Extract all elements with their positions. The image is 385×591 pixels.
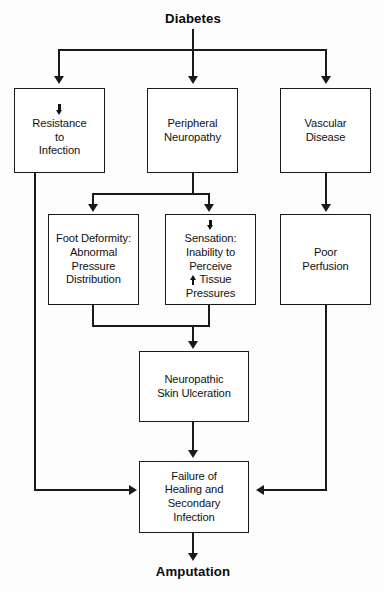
node-foot-line2: Abnormal xyxy=(52,246,135,260)
node-failure-of-healing[interactable]: Failure of Healing and Secondary Infecti… xyxy=(139,461,249,533)
connector-perfusion-bypass-vertical xyxy=(325,305,327,491)
diagram-title: Diabetes xyxy=(143,11,243,26)
arrowhead-failure-right xyxy=(256,485,264,495)
node-resistance-to-infection[interactable]: Resistance to Infection xyxy=(14,88,105,173)
arrowhead-amputation xyxy=(188,553,198,561)
connector-resistance-bypass-vertical xyxy=(34,173,36,491)
down-arrow-icon xyxy=(207,220,214,231)
arrowhead-resistance xyxy=(54,76,64,84)
node-foot-line3: Pressure xyxy=(52,260,135,274)
node-foot-line1: Foot Deformity: xyxy=(52,232,135,246)
node-perfusion-line1: Poor xyxy=(284,246,367,260)
node-failure-line4: Infection xyxy=(143,511,245,525)
connector-sensation-down xyxy=(208,305,210,327)
connector-failure-to-amputation xyxy=(192,533,194,555)
node-foot-deformity[interactable]: Foot Deformity: Abnormal Pressure Distri… xyxy=(48,214,139,305)
node-vascular-disease[interactable]: Vascular Disease xyxy=(280,88,371,173)
node-failure-line2: Healing and xyxy=(143,483,245,497)
node-resistance-line1: Resistance xyxy=(18,117,101,131)
node-sensation-line1: Sensation: xyxy=(169,232,252,246)
diagram-outcome: Amputation xyxy=(133,564,253,579)
node-foot-line4: Distribution xyxy=(52,273,135,287)
connector-foot-down xyxy=(92,305,94,327)
node-resistance-line3: Infection xyxy=(18,144,101,158)
arrowhead-sensation xyxy=(204,204,214,212)
arrowhead-foot-deformity xyxy=(88,204,98,212)
node-ulcer-line2: Skin Ulceration xyxy=(143,387,245,401)
connector-drop-neuropathy xyxy=(192,49,194,78)
connector-vascular-to-perfusion xyxy=(325,173,327,206)
connector-drop-resistance xyxy=(58,49,60,78)
connector-diabetes-stem xyxy=(192,29,194,51)
arrowhead-failure-left xyxy=(129,485,137,495)
node-peripheral-line2: Neuropathy xyxy=(151,131,234,145)
node-peripheral-neuropathy[interactable]: Peripheral Neuropathy xyxy=(147,88,238,173)
node-vascular-line1: Vascular xyxy=(284,117,367,131)
diagram-outcome-text: Amputation xyxy=(156,564,230,579)
connector-neuropathy-split-bar xyxy=(92,193,210,195)
node-failure-line3: Secondary xyxy=(143,497,245,511)
diagram-title-text: Diabetes xyxy=(165,11,221,26)
arrowhead-vascular xyxy=(321,76,331,84)
connector-drop-vascular xyxy=(325,49,327,78)
node-sensation-line5: Pressures xyxy=(169,287,252,301)
arrowhead-neuropathic-ulcer xyxy=(188,341,198,349)
node-resistance-line2: to xyxy=(18,131,101,145)
up-arrow-icon xyxy=(190,274,197,285)
connector-neuropathy-stem xyxy=(192,173,194,195)
node-sensation[interactable]: Sensation: Inability to Perceive Tissue … xyxy=(165,214,256,305)
node-sensation-line4: Tissue xyxy=(200,273,232,285)
node-sensation-line2: Inability to xyxy=(169,246,252,260)
node-vascular-line2: Disease xyxy=(284,131,367,145)
node-failure-line1: Failure of xyxy=(143,470,245,484)
connector-perfusion-bypass-horizontal xyxy=(264,489,327,491)
arrowhead-failure-top xyxy=(188,450,198,458)
node-perfusion-line2: Perfusion xyxy=(284,260,367,274)
node-sensation-line3: Perceive xyxy=(169,260,252,274)
flowchart-diagram: Diabetes Resistance to Infection Periphe… xyxy=(0,0,385,591)
arrowhead-neuropathy xyxy=(188,76,198,84)
node-poor-perfusion[interactable]: Poor Perfusion xyxy=(280,214,371,305)
node-neuropathic-skin-ulceration[interactable]: Neuropathic Skin Ulceration xyxy=(139,351,249,422)
arrowhead-poor-perfusion xyxy=(321,204,331,212)
connector-resistance-bypass-horizontal xyxy=(34,489,130,491)
node-peripheral-line1: Peripheral xyxy=(151,117,234,131)
down-arrow-icon xyxy=(56,104,63,115)
connector-ulcer-to-failure xyxy=(192,422,194,452)
node-ulcer-line1: Neuropathic xyxy=(143,373,245,387)
